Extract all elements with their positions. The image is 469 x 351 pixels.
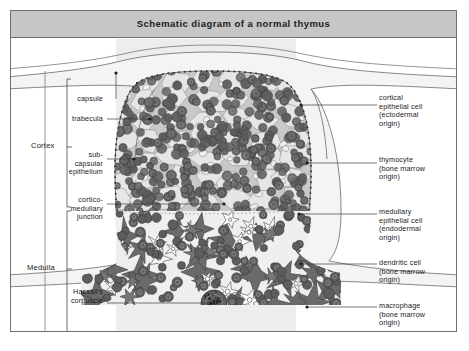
label-thymocyte: thymocyte (bone marrow origin) xyxy=(379,156,457,182)
label-macrophage: macrophage (bone marrow origin) xyxy=(379,302,457,328)
label-trabecula: trabecula xyxy=(43,115,103,124)
label-cortical-epithelial-cell: cortical epithelial cell (ectodermal ori… xyxy=(379,94,457,128)
page-title: Schematic diagram of a normal thymus xyxy=(11,11,456,37)
label-cortico-medullary-junction: cortico- medullary junction xyxy=(43,196,103,222)
region-label-cortex: Cortex xyxy=(31,141,55,150)
label-subcapsular-epithelium: sub- capsular epithelium xyxy=(43,151,103,177)
title-bar: Schematic diagram of a normal thymus xyxy=(11,11,456,38)
label-hassalls-corpuscle: Hassall's corpuscle xyxy=(41,288,103,305)
diagram-frame: Schematic diagram of a normal thymus Cor… xyxy=(10,10,457,332)
label-dendritic-cell: dendritic cell (bone marrow origin) xyxy=(379,259,457,285)
region-label-medulla: Medulla xyxy=(27,263,55,272)
label-capsule: capsule xyxy=(53,95,103,104)
diagram-root: Schematic diagram of a normal thymus Cor… xyxy=(0,0,469,351)
label-medullary-epithelial-cell: medullary epithelial cell (endodermal or… xyxy=(379,208,457,242)
